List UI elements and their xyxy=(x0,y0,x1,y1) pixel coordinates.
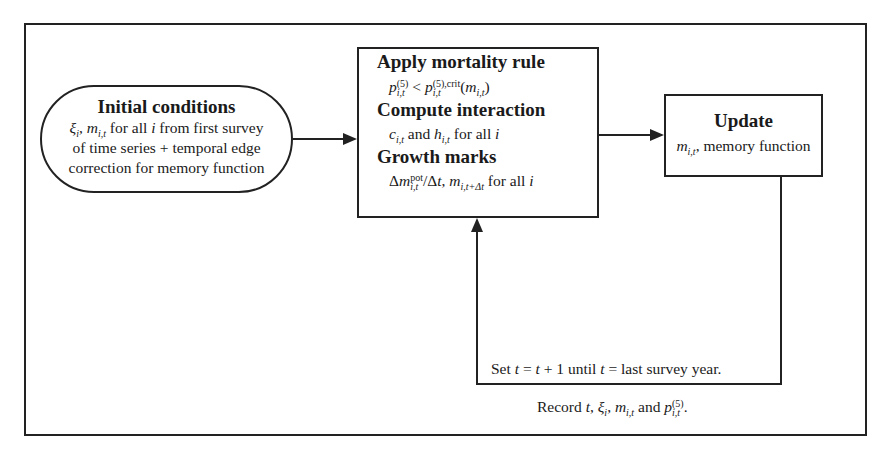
update-title: Update xyxy=(666,110,821,132)
loop-condition-label: Set t = t + 1 until t = last survey year… xyxy=(491,360,721,378)
growth-marks-title: Growth marks xyxy=(377,146,597,168)
record-label: Record t, ξi, mi,t and p(5)i,t. xyxy=(537,398,688,417)
loop-line-up xyxy=(476,230,478,385)
update-body: mi,t, memory function xyxy=(666,136,821,156)
mortality-rule-title: Apply mortality rule xyxy=(377,51,597,73)
arrowhead-right-icon xyxy=(343,133,357,145)
loop-line-down xyxy=(780,177,782,385)
edge-center-to-update xyxy=(599,134,652,136)
process-node: Apply mortality rule p(5)i,t < p(5),crit… xyxy=(357,47,599,218)
initial-conditions-line3: correction for memory function xyxy=(42,158,291,178)
arrowhead-right-icon xyxy=(650,129,664,141)
compute-interaction-title: Compute interaction xyxy=(377,99,597,121)
mortality-rule-formula: p(5)i,t < p(5),criti,t(mi,t) xyxy=(389,77,597,97)
update-node: Update mi,t, memory function xyxy=(664,94,823,177)
initial-conditions-line1: ξi, mi,t for all i from first survey xyxy=(42,118,291,138)
arrowhead-up-icon xyxy=(471,218,483,232)
initial-conditions-title: Initial conditions xyxy=(42,96,291,118)
compute-interaction-body: ci,t and hi,t for all i xyxy=(389,124,597,144)
edge-initial-to-center xyxy=(293,138,345,140)
initial-conditions-line2: of time series + temporal edge xyxy=(42,138,291,158)
growth-marks-body: Δmpoti,t/Δt, mi,t+Δt for all i xyxy=(389,171,597,191)
loop-line-bottom xyxy=(476,383,782,385)
initial-conditions-node: Initial conditions ξi, mi,t for all i fr… xyxy=(40,85,293,193)
